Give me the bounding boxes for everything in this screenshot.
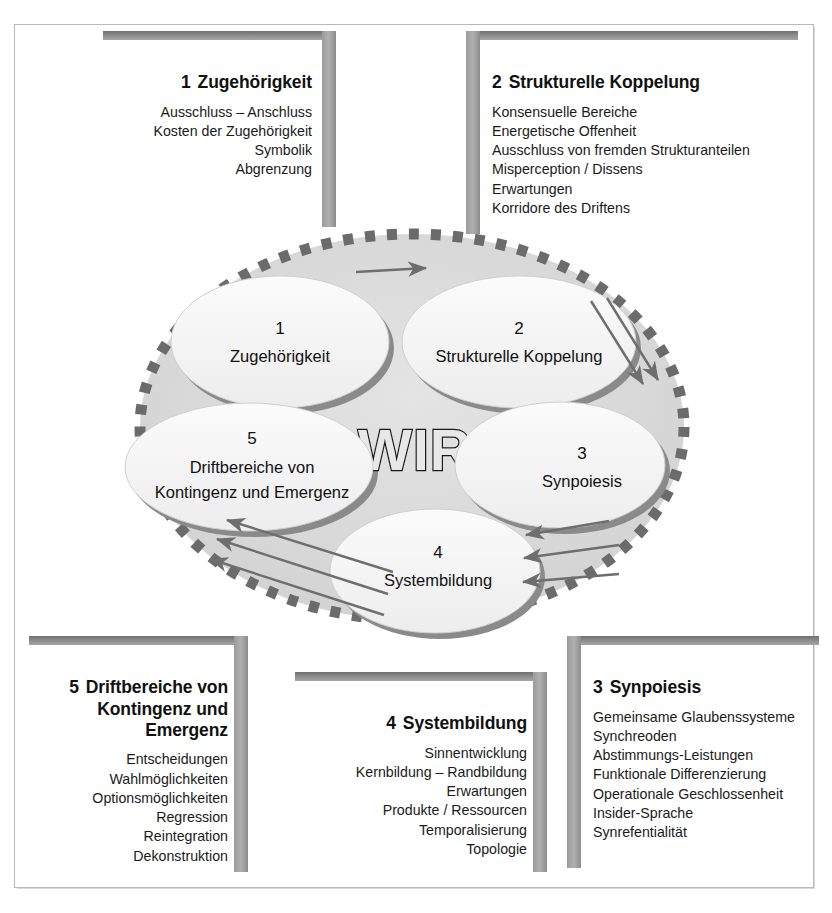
box-side-bar (234, 636, 248, 872)
ellipse-1-label: Zugehörigkeit (230, 347, 330, 365)
figure-page: 1Zugehörigkeit Ausschluss – Anschluss Ko… (0, 0, 832, 913)
list-item: Konsensuelle Bereiche (492, 103, 798, 122)
box-top-bar (295, 672, 547, 681)
box-title: 4Systembildung (295, 692, 531, 735)
box-number: 4 (386, 713, 396, 733)
box-number: 2 (492, 72, 502, 92)
box-title: 2Strukturelle Koppelung (482, 51, 798, 94)
ellipse-4-label: Systembildung (384, 571, 492, 589)
ellipse-2-label: Strukturelle Koppelung (436, 347, 603, 365)
infobox-systembildung: 4Systembildung Sinnentwicklung Kernbildu… (295, 672, 547, 872)
list-item: Ausschluss von fremden Strukturanteilen (492, 141, 798, 160)
ellipse-2-strukturelle-koppelung: 2 Strukturelle Koppelung (402, 276, 636, 408)
infobox-zugehoerigkeit: 1Zugehörigkeit Ausschluss – Anschluss Ko… (103, 31, 336, 227)
list-item: Reintegration (29, 827, 228, 846)
infobox-driftbereiche: 5Driftbereiche vonKontingenz undEmergenz… (29, 636, 248, 872)
ellipse-3-number: 3 (577, 444, 586, 463)
box-title: 1Zugehörigkeit (103, 51, 320, 94)
box-item-list: Sinnentwicklung Kernbildung – Randbildun… (295, 744, 531, 859)
box-title-text: Synpoiesis (610, 677, 701, 697)
ellipse-4-systembildung: 4 Systembildung (330, 509, 540, 633)
ellipse-5-number: 5 (247, 429, 256, 448)
list-item: Produkte / Ressourcen (295, 801, 527, 820)
box-item-list: Entscheidungen Wahlmöglichkeiten Options… (29, 750, 232, 865)
wir-center-label: WIR (358, 418, 472, 482)
list-item: Energetische Offenheit (492, 122, 798, 141)
list-item: Gemeinsame Glaubenssysteme (593, 708, 819, 727)
list-item: Abstimmungs-Leistungen (593, 746, 819, 765)
list-item: Optionsmöglichkeiten (29, 789, 228, 808)
list-item: Dekonstruktion (29, 847, 228, 866)
ellipse-5-label-line2: Kontingenz und Emergenz (155, 483, 349, 501)
box-side-bar (466, 31, 480, 234)
list-item: Regression (29, 808, 228, 827)
list-item: Topologie (295, 840, 527, 859)
box-title-text: Systembildung (403, 713, 527, 733)
box-item-list: Gemeinsame Glaubenssysteme Synchreoden A… (583, 708, 819, 843)
list-item: Erwartungen (492, 180, 798, 199)
box-title: 3Synpoiesis (583, 656, 819, 699)
ellipse-1-number: 1 (275, 319, 284, 338)
box-number: 5 (69, 677, 79, 697)
box-title-text: Driftbereiche vonKontingenz undEmergenz (86, 677, 228, 740)
list-item: Kernbildung – Randbildung (295, 763, 527, 782)
wir-text: WIR (358, 418, 472, 482)
list-item: Entscheidungen (29, 750, 228, 769)
list-item: Sinnentwicklung (295, 744, 527, 763)
ellipse-3-synpoiesis: 3 Synpoiesis (455, 402, 665, 528)
box-title-text: Strukturelle Koppelung (509, 72, 700, 92)
list-item: Wahlmöglichkeiten (29, 770, 228, 789)
list-item: Temporalisierung (295, 821, 527, 840)
list-item: Operationale Geschlossenheit (593, 785, 819, 804)
ellipse-5-label-line1: Driftbereiche von (190, 458, 315, 476)
ellipse-1-zugehoerigkeit: 1 Zugehörigkeit (171, 276, 389, 408)
box-item-list: Ausschluss – Anschluss Kosten der Zugehö… (103, 103, 320, 180)
infobox-strukturelle-koppelung: 2Strukturelle Koppelung Konsensuelle Ber… (466, 31, 798, 234)
list-item: Symbolik (103, 141, 312, 160)
box-side-bar (567, 636, 581, 868)
list-item: Kosten der Zugehörigkeit (103, 122, 312, 141)
ellipse-3-label: Synpoiesis (542, 472, 622, 490)
list-item: Abgrenzung (103, 160, 312, 179)
box-title-text: Zugehörigkeit (198, 72, 312, 92)
ellipse-2-number: 2 (514, 319, 523, 338)
box-number: 1 (181, 72, 191, 92)
box-number: 3 (593, 677, 603, 697)
ellipse-5-driftbereiche: 5 Driftbereiche von Kontingenz und Emerg… (125, 403, 373, 531)
box-title: 5Driftbereiche vonKontingenz undEmergenz (29, 656, 232, 741)
box-item-list: Konsensuelle Bereiche Energetische Offen… (482, 103, 798, 218)
list-item: Synrefentialität (593, 823, 819, 842)
infobox-synpoiesis: 3Synpoiesis Gemeinsame Glaubenssysteme S… (567, 636, 819, 868)
list-item: Insider-Sprache (593, 804, 819, 823)
list-item: Synchreoden (593, 727, 819, 746)
ellipse-4-number: 4 (433, 543, 442, 562)
box-top-bar (466, 31, 798, 40)
list-item: Misperception / Dissens (492, 160, 798, 179)
box-side-bar (322, 31, 336, 227)
list-item: Korridore des Driftens (492, 199, 798, 218)
list-item: Funktionale Differenzierung (593, 765, 819, 784)
list-item: Erwartungen (295, 782, 527, 801)
central-system-diagram: WIR 1 Zugehörigkeit 2 Strukturelle Koppe… (120, 222, 710, 642)
box-side-bar (533, 672, 547, 872)
list-item: Ausschluss – Anschluss (103, 103, 312, 122)
box-top-bar (103, 31, 336, 40)
